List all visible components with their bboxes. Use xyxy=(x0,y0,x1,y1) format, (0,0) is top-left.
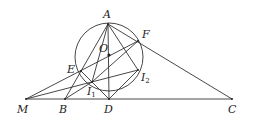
label-I2: I2 xyxy=(140,71,150,85)
label-B: B xyxy=(58,103,67,116)
segment-D-I2 xyxy=(109,70,138,99)
label-D: D xyxy=(103,103,113,116)
label-C: C xyxy=(228,103,237,116)
segment-A-C xyxy=(108,24,232,99)
point-M xyxy=(25,98,27,100)
segment-M-F xyxy=(26,41,138,99)
point-I1 xyxy=(91,81,93,83)
diagram-canvas: AFOEI2I1DMBC xyxy=(0,0,254,120)
label-M: M xyxy=(16,103,29,116)
label-A: A xyxy=(102,8,111,21)
point-B xyxy=(64,98,66,100)
point-F xyxy=(137,40,139,42)
label-F: F xyxy=(141,28,150,41)
points xyxy=(25,23,233,100)
segments xyxy=(26,24,232,99)
label-O: O xyxy=(99,42,108,55)
point-labels: AFOEI2I1DMBC xyxy=(16,8,237,116)
segment-A-D xyxy=(108,24,109,99)
geometry-diagram: AFOEI2I1DMBC xyxy=(0,0,254,120)
segment-A-I2 xyxy=(108,24,138,70)
label-I1: I1 xyxy=(86,85,96,99)
segment-E-I1 xyxy=(81,71,92,82)
point-C xyxy=(231,98,233,100)
segment-M-I2 xyxy=(26,70,138,99)
point-E xyxy=(80,70,82,72)
point-D xyxy=(108,98,110,100)
point-I2 xyxy=(137,69,139,71)
point-A xyxy=(107,23,109,25)
label-E: E xyxy=(66,63,75,76)
